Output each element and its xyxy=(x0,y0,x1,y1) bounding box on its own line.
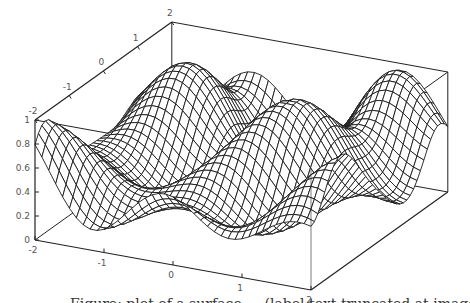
z-tick-label: 0.4 xyxy=(16,187,31,197)
z-tick-label: 0.6 xyxy=(16,163,31,173)
y-tick-mark xyxy=(138,47,140,50)
x-tick-label: -2 xyxy=(29,245,38,255)
box-edge-bottom-right xyxy=(311,192,448,290)
z-tick-label: 1 xyxy=(24,115,30,125)
x-tick-label: 1 xyxy=(237,283,243,293)
y-tick-mark xyxy=(69,96,71,99)
z-tick-label: 0 xyxy=(24,235,30,245)
y-tick-label: 2 xyxy=(167,8,173,18)
y-tick-label: -1 xyxy=(63,82,72,92)
figure-caption: Figure: plot of a surface — (label text … xyxy=(70,294,470,303)
box-edge-top-back xyxy=(172,22,448,72)
y-tick-mark xyxy=(103,71,105,74)
x-tick-label: 0 xyxy=(168,270,174,280)
y-tick-label: 0 xyxy=(99,57,105,67)
z-tick-label: 0.2 xyxy=(16,211,30,221)
surface-mesh xyxy=(35,63,448,240)
z-tick-label: 0.8 xyxy=(16,139,31,149)
x-tick-label: -1 xyxy=(98,258,107,268)
y-tick-label: 1 xyxy=(133,33,139,43)
